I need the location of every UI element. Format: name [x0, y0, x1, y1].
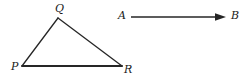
arrowhead-icon	[215, 13, 226, 21]
arrow-label-a: A	[118, 10, 126, 21]
triangle-edge-pq	[22, 18, 58, 66]
triangle-PQR	[22, 18, 122, 66]
vertex-label-p: P	[11, 61, 18, 72]
vertex-label-r: R	[124, 64, 132, 75]
geometry-figure-canvas: Q P R A B	[0, 0, 250, 83]
arrow-AB	[131, 13, 226, 21]
arrow-label-b: B	[231, 10, 239, 21]
triangle-edge-qr	[58, 18, 122, 66]
vertex-label-q: Q	[55, 3, 64, 14]
